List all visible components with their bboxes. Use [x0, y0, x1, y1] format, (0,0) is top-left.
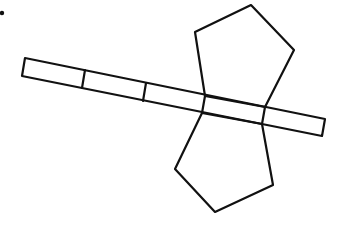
top-pentagon — [195, 5, 294, 107]
bottom-pentagon — [175, 113, 273, 212]
strip-divider-4 — [262, 107, 265, 124]
marker-dot — [0, 11, 4, 15]
prism-net-diagram — [0, 0, 349, 235]
rectangle-strip — [22, 58, 325, 136]
strip-divider-1 — [82, 70, 85, 88]
strip-divider-3 — [202, 96, 205, 113]
diagram-svg — [0, 0, 349, 235]
strip-dividers — [82, 70, 265, 124]
strip-divider-2 — [143, 83, 146, 101]
